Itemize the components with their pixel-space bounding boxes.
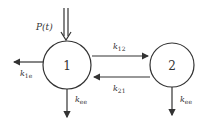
input-arrow <box>61 8 71 40</box>
compartment-2-label: 2 <box>168 59 176 73</box>
kee1-label: kee <box>75 95 87 105</box>
k12-label: k12 <box>113 42 126 52</box>
compartment-diagram: P(t) 1 2 k12 k21 k1e kee kee <box>0 0 205 123</box>
compartment-1-label: 1 <box>63 59 71 73</box>
kee2-label: kee <box>180 95 192 105</box>
k1e-label: k1e <box>20 69 33 79</box>
k21-label: k21 <box>113 84 126 94</box>
input-label: P(t) <box>35 22 53 32</box>
